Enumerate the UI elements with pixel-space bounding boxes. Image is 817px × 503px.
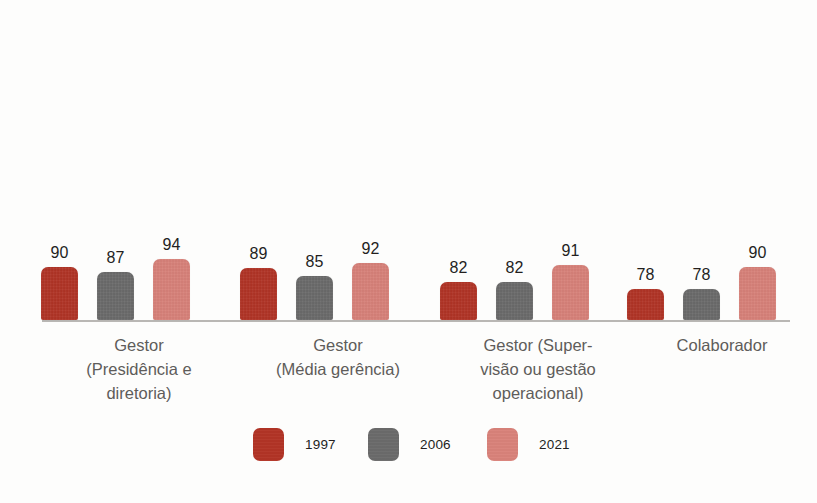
category-axis-labels: Gestor(Presidência ediretoria)Gestor(Méd… [0, 333, 817, 425]
legend-swatch-2006 [368, 428, 399, 461]
bar-value-label: 82 [484, 259, 545, 277]
bar-rect [41, 267, 78, 321]
bar-rect [153, 259, 190, 320]
category-label-1: Gestor(Presidência ediretoria) [24, 333, 254, 405]
legend-item-2006[interactable]: 2006 [368, 428, 451, 461]
bar-2006-group-3[interactable]: 82 [496, 282, 533, 321]
bar-rect [97, 272, 134, 320]
bar-value-label: 78 [615, 266, 676, 284]
bar-rect [296, 276, 333, 320]
bar-value-label: 85 [284, 253, 345, 271]
category-label-2: Gestor(Média gerência) [223, 333, 453, 381]
bar-1997-group-1[interactable]: 90 [41, 267, 78, 321]
legend-label-1997: 1997 [305, 437, 336, 452]
category-label-line: (Presidência e [24, 357, 254, 381]
category-label-line: operacional) [423, 381, 653, 405]
bar-2006-group-1[interactable]: 87 [97, 272, 134, 320]
legend-label-2021: 2021 [539, 437, 570, 452]
legend-swatch-2021 [487, 428, 518, 461]
legend-swatch-1997 [253, 428, 284, 461]
plot-area: 908794898592828291787890 [0, 0, 817, 322]
bar-value-label: 91 [540, 242, 601, 260]
bar-1997-group-2[interactable]: 89 [240, 268, 277, 320]
bar-2021-group-4[interactable]: 90 [739, 267, 776, 321]
bar-2021-group-3[interactable]: 91 [552, 265, 589, 320]
legend-item-2021[interactable]: 2021 [487, 428, 570, 461]
bar-value-label: 89 [228, 245, 289, 263]
bar-value-label: 87 [85, 249, 146, 267]
bar-1997-group-3[interactable]: 82 [440, 282, 477, 321]
category-label-line: (Média gerência) [223, 357, 453, 381]
bar-rect [440, 282, 477, 321]
bar-1997-group-4[interactable]: 78 [627, 289, 664, 320]
chart-legend: 199720062021 [0, 428, 817, 484]
bar-value-label: 94 [141, 236, 202, 254]
legend-item-1997[interactable]: 1997 [253, 428, 336, 461]
category-label-line: Colaborador [607, 333, 817, 357]
bar-rect [627, 289, 664, 320]
bar-rect [496, 282, 533, 321]
x-axis-line [42, 320, 790, 322]
bar-2006-group-4[interactable]: 78 [683, 289, 720, 320]
category-label-line: Gestor [223, 333, 453, 357]
bar-rect [739, 267, 776, 321]
bar-value-label: 90 [29, 244, 90, 262]
bar-rect [552, 265, 589, 320]
bar-value-label: 78 [671, 266, 732, 284]
category-label-line: diretoria) [24, 381, 254, 405]
bar-2021-group-1[interactable]: 94 [153, 259, 190, 320]
bar-rect [240, 268, 277, 320]
bar-2006-group-2[interactable]: 85 [296, 276, 333, 320]
bar-rect [352, 263, 389, 320]
bar-2021-group-2[interactable]: 92 [352, 263, 389, 320]
bar-value-label: 92 [340, 240, 401, 258]
category-label-line: Gestor [24, 333, 254, 357]
bar-chart: 908794898592828291787890 Gestor(Presidên… [0, 0, 817, 503]
category-label-4: Colaborador [607, 333, 817, 357]
bar-rect [683, 289, 720, 320]
bar-value-label: 82 [428, 259, 489, 277]
bar-value-label: 90 [727, 244, 788, 262]
legend-label-2006: 2006 [420, 437, 451, 452]
category-label-line: visão ou gestão [423, 357, 653, 381]
